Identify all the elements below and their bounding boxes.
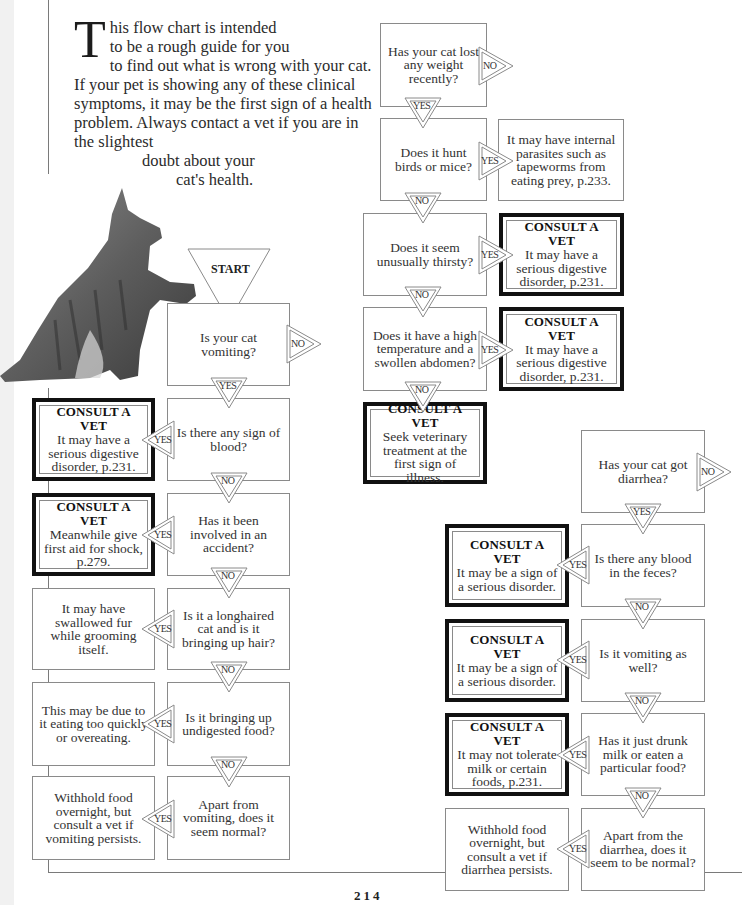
start-label: START — [211, 262, 250, 277]
intro-line-2: to be a rough guide for you — [110, 37, 290, 56]
outcome-withhold-food-diarrhea: Withhold food overnight, but consult a v… — [445, 808, 569, 891]
question-undigested: Is it bringing up undigested food? — [167, 682, 290, 766]
outcome-consult-vet-seek-treatment: CONSULT A VETSeek veterinary treatment a… — [363, 402, 487, 484]
yes-arrow-right: YES — [478, 235, 514, 275]
yes-arrow-left: YES — [556, 545, 590, 585]
no-arrow-down: NO — [624, 598, 662, 630]
outcome-consult-vet-milk: CONSULT A VETIt may not tolerate milk or… — [445, 713, 569, 796]
outcome-swallowed-fur: It may have swallowed fur while grooming… — [32, 588, 155, 670]
no-arrow-down: NO — [404, 286, 442, 318]
bottom-rule — [48, 872, 448, 873]
no-arrow-right: NO — [478, 46, 514, 86]
question-longhaired: Is it a longhaired cat and is it bringin… — [167, 588, 290, 670]
no-arrow-down: NO — [404, 381, 442, 413]
no-arrow-down: NO — [624, 692, 662, 724]
yes-arrow-left: YES — [556, 829, 590, 869]
no-arrow-right: NO — [286, 324, 322, 364]
page-margin — [0, 0, 14, 905]
yes-arrow-left: YES — [556, 640, 590, 680]
yes-arrow-left: YES — [141, 515, 175, 555]
outcome-consult-vet-blood-feces: CONSULT A VETIt may be a sign of a serio… — [445, 524, 569, 607]
question-thirsty: Does it seem unusually thirsty? — [363, 213, 487, 296]
question-vomiting-as-well: Is it vomiting as well? — [581, 619, 705, 702]
yes-arrow-down: YES — [404, 97, 442, 129]
yes-arrow-down: YES — [624, 503, 662, 535]
outcome-withhold-food-vomit: Withhold food overnight, but consult a v… — [32, 776, 155, 860]
no-arrow-down: NO — [210, 472, 248, 504]
yes-arrow-left: YES — [556, 735, 590, 775]
no-arrow-down: NO — [210, 756, 248, 788]
page-number: 214 — [354, 888, 383, 904]
question-vomiting: Is your cat vomiting? — [167, 303, 290, 386]
yes-arrow-right: YES — [478, 330, 514, 370]
outcome-consult-vet-temperature: CONSULT A VETIt may have a serious diges… — [499, 307, 624, 391]
question-weight-loss: Has your cat lost any weight recently? — [380, 23, 487, 107]
bottom-rule-right — [705, 872, 742, 873]
outcome-consult-vet-thirsty: CONSULT A VETIt may have a serious diges… — [499, 213, 624, 296]
question-diarrhea: Has your cat got diarrhea? — [581, 430, 705, 513]
no-arrow-down: NO — [624, 787, 662, 819]
outcome-parasites: It may have internal parasites such as t… — [498, 119, 624, 201]
yes-arrow-right: YES — [478, 141, 514, 181]
intro-line-1: his flow chart is intended — [110, 18, 277, 37]
drop-cap: T — [74, 20, 106, 60]
yes-arrow-left: YES — [141, 704, 175, 744]
intro-body: to find out what is wrong with your cat.… — [74, 56, 374, 151]
no-arrow-down: NO — [210, 661, 248, 693]
intro-paragraph: T his flow chart is intended to be a rou… — [74, 18, 374, 189]
question-milk-food: Has it just drunk milk or eaten a partic… — [581, 713, 705, 796]
no-arrow-down: NO — [210, 567, 248, 599]
outcome-consult-vet-digestive: CONSULT A VETIt may have a serious diges… — [32, 398, 155, 481]
question-temperature: Does it have a high temperature and a sw… — [363, 307, 487, 391]
yes-arrow-left: YES — [141, 420, 175, 460]
question-hunt: Does it hunt birds or mice? — [380, 118, 487, 201]
no-arrow-down: NO — [404, 192, 442, 224]
outcome-consult-vet-shock: CONSULT A VETMeanwhile give first aid fo… — [32, 493, 155, 576]
outcome-consult-vet-vomiting: CONSULT A VETIt may be a sign of a serio… — [445, 619, 569, 702]
left-rule — [48, 0, 49, 174]
yes-arrow-left: YES — [141, 609, 175, 649]
outcome-eating-quickly: This may be due to it eating too quickly… — [32, 682, 155, 766]
yes-arrow-left: YES — [141, 799, 175, 839]
question-diarrhea-normal: Apart from the diarrhea, does it seem to… — [581, 808, 705, 891]
question-blood: Is there any sign of blood? — [167, 398, 290, 481]
question-vomit-normal: Apart from vomiting, does it seem normal… — [167, 776, 290, 860]
intro-tail-1: doubt about your — [74, 151, 374, 170]
yes-arrow-down: YES — [210, 377, 248, 409]
question-accident: Has it been involved in an accident? — [167, 493, 290, 576]
no-arrow-right: NO — [696, 452, 732, 492]
question-blood-feces: Is there any blood in the feces? — [581, 524, 705, 607]
